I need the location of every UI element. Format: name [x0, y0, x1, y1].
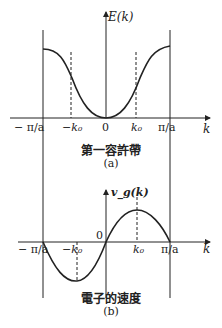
tick-pos-k0: k₀ [131, 121, 143, 134]
top-caption: 第一容許帶 [81, 143, 141, 158]
tick-pi-a: π/a [158, 121, 176, 134]
bottom-x-label: k [203, 242, 210, 256]
bottom-origin-label: 0 [96, 229, 103, 242]
bottom-caption: 電子的速度 [81, 291, 142, 306]
top-x-label: k [203, 122, 210, 136]
velocity-axis-label: v_g(k) [111, 186, 149, 200]
top-sublabel: (a) [103, 157, 118, 170]
bottom-sublabel: (b) [103, 305, 119, 318]
btick-pos-k0: k₀ [133, 243, 145, 256]
tick-zero: 0 [102, 121, 109, 134]
btick-neg-k0: −k₀ [62, 243, 83, 256]
energy-band-graph [10, 12, 210, 118]
tick-neg-k0: −k₀ [62, 121, 83, 134]
btick-neg-pi-a: − π/a [18, 243, 49, 256]
tick-neg-pi-a: − π/a [14, 121, 45, 134]
energy-axis-label: E(k) [107, 10, 134, 24]
btick-pi-a: π/a [161, 243, 179, 256]
band-diagram: E(k) k − π/a −k₀ 0 k₀ π/a 第一容許帶 (a) v_g(… [0, 0, 222, 328]
